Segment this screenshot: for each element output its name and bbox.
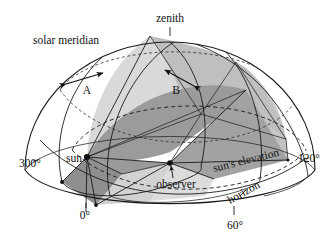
label-zenith: zenith xyxy=(156,12,184,24)
figure-canvas: zenith solar meridian A B sun observer 3… xyxy=(0,0,334,239)
third-meridian-arc-lower xyxy=(264,176,308,196)
label-azimuth-300: 300° xyxy=(19,157,41,169)
label-solar-meridian: solar meridian xyxy=(33,34,99,46)
label-arrow-b: B xyxy=(172,84,180,96)
left-rim-point xyxy=(60,180,64,184)
label-sun: sun xyxy=(66,152,82,164)
label-azimuth-120: 120° xyxy=(298,152,320,164)
label-azimuth-0: 0° xyxy=(80,209,91,221)
label-horizon: horizon xyxy=(225,178,262,206)
label-arrow-a: A xyxy=(83,84,92,96)
label-observer: observer xyxy=(156,178,196,190)
observer-point xyxy=(167,160,173,166)
lower-rim-point xyxy=(94,203,98,207)
sky-dome-diagram: zenith solar meridian A B sun observer 3… xyxy=(0,0,334,239)
right-rim-point xyxy=(286,158,289,161)
sun-point xyxy=(84,154,90,160)
label-azimuth-60: 60° xyxy=(227,219,244,231)
